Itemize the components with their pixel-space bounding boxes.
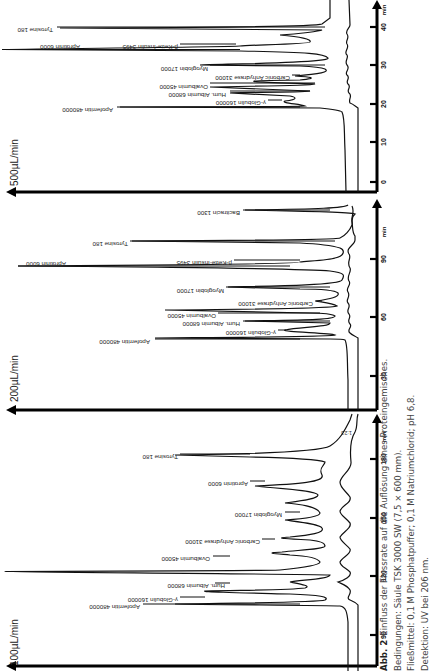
panel1-label-ovalbumin: Ovalbumin 45000: [159, 84, 208, 91]
panel2-label-aprotinin: Aprotinin 6000: [26, 261, 66, 268]
panel2-label-apoferritin: Apoferritin 480000: [99, 339, 150, 346]
caption-detection: Detektion: UV bei 206 nm.: [419, 341, 433, 671]
panel2-label-globulin: γ-Globulin 160000: [225, 330, 276, 337]
panel1-arrow-left-icon: [6, 187, 16, 197]
panel3-label-aprotinin: Aprotinin 6000: [208, 481, 248, 488]
panel3-label-ovalbumin: Ovalbumin 45000: [161, 556, 210, 563]
panel2-label-tyrosine: Tyrosine 180: [92, 241, 128, 248]
caption-conditions: Bedingungen: Säule TSK 3000 SW (7,5 × 60…: [392, 341, 406, 671]
panel2-label-ovalbumin: Ovalbumin 45000: [167, 313, 216, 320]
panel1-label-tyrosine: Tyrosine 180: [17, 27, 53, 34]
panel2-tick-60: 60: [380, 313, 387, 321]
panel1-unit: min: [381, 4, 387, 15]
panel1-label-aprotinin: Aprotinin 6000: [40, 44, 80, 51]
caption-eluent: Fließmittel: 0,1 M Phosphatpuffer; 0,1 M…: [405, 341, 419, 671]
panel2-label-bacitracin: Bacitracin 1300: [197, 210, 240, 217]
panel1-label-insulin: β-Kette-Insulin 3495: [122, 44, 178, 51]
panel1-tick-0: 0: [380, 180, 387, 184]
panel2-unit: min: [381, 226, 387, 237]
panel3-label-apoferritin: Apoferritin 480000: [89, 604, 140, 611]
panel2-label-albumin: Hum. Albumin 68000: [182, 321, 240, 328]
panel3-flow-rate: 100µL/min: [9, 619, 20, 666]
panel1-label-myoglobin: Myoglobin 17000: [160, 66, 208, 73]
panel2-tick-90: 90: [380, 255, 387, 263]
panel-500: 0 10 20 30 40 min 500µL/min Apoferritin …: [2, 0, 387, 197]
panel3-label-myoglobin: Myoglobin 17000: [234, 512, 282, 519]
panel-200: 30 60 90 min 200µL/min Apoferritin 48000…: [6, 199, 387, 415]
panel1-tick-30: 30: [380, 61, 387, 69]
panel2-arrow-up-icon: [372, 199, 382, 208]
panel1-label-carbonic: Carbonic Anhydrase 31000: [215, 75, 290, 82]
panel1-label-apoferritin: Apoferritin 480000: [62, 107, 113, 114]
panel1-label-globulin: γ-Globulin 160000: [215, 100, 266, 107]
panel1-tick-20: 20: [380, 100, 387, 108]
panel3-label-tyrosine: Tyrosine 180: [142, 454, 178, 461]
panel2-label-insulin: β-Kette-Insulin 3495: [176, 260, 232, 267]
panel3-label-globulin: γ-Globulin 160000: [127, 597, 178, 604]
panel1-tick-40: 40: [380, 23, 387, 31]
figure-caption: Abb. 2Einfluss der Flussrate auf die Auf…: [378, 341, 432, 671]
panel1-flow-rate: 500µL/min: [9, 139, 20, 186]
caption-title: Einfluss der Flussrate auf die Auflösung…: [379, 359, 389, 636]
panel-100: 90 120 150 180 min 100µL/min 1:23 Apofer…: [5, 414, 387, 671]
panel2-flow-rate: 200µL/min: [9, 355, 20, 402]
panel3-label-albumin: Hum. Albumin 68000: [167, 583, 225, 590]
panel2-arrow-left-icon: [6, 405, 16, 415]
caption-figure-number: Abb. 2: [379, 640, 389, 671]
panel2-label-myoglobin: Myoglobin 17000: [176, 288, 224, 295]
panel1-label-albumin: Hum. Albumin 68000: [168, 92, 226, 99]
panel2-label-carbonic: Carbonic Anhydrase 31000: [238, 301, 313, 308]
panel3-label-carbonic: Carbonic Anhydrase 31000: [185, 539, 260, 546]
panel1-tick-10: 10: [380, 138, 387, 146]
